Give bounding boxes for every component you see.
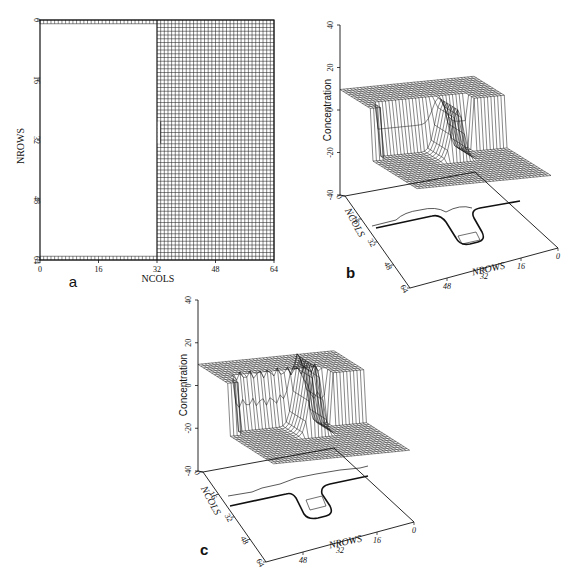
z-tick-label: 40 bbox=[326, 21, 335, 29]
panel-a-grid-plot: 016324864 016324864 NROWS NCOLS a bbox=[15, 18, 278, 290]
nrows-tick-label: 16 bbox=[373, 536, 381, 545]
ncols-tick-label: 0 bbox=[334, 193, 344, 201]
panel-c-letter: c bbox=[200, 541, 208, 558]
z-tick-label: -40 bbox=[326, 190, 335, 201]
panel-c-ncols-label: NCOLS bbox=[198, 483, 223, 517]
x-tick-label: 16 bbox=[95, 265, 103, 274]
y-tick-label: 16 bbox=[32, 76, 41, 84]
panel-a-x-axis-label: NCOLS bbox=[142, 273, 175, 284]
panel-b-letter: b bbox=[346, 264, 355, 281]
contour-line bbox=[372, 207, 472, 226]
z-tick-label: 40 bbox=[184, 296, 193, 304]
z-tick-label: -20 bbox=[326, 147, 335, 158]
y-tick-label: 32 bbox=[32, 136, 41, 144]
surface-mesh bbox=[198, 351, 410, 464]
panel-c-surface-plot: 0163248644832160 40200-20-40 Concentrati… bbox=[178, 296, 416, 568]
figure-canvas: 016324864 016324864 NROWS NCOLS a 016324… bbox=[0, 0, 584, 568]
ncols-tick-label: 48 bbox=[382, 260, 394, 271]
panel-c-surface bbox=[198, 351, 410, 464]
contour-line bbox=[230, 476, 368, 519]
contour-line bbox=[306, 496, 326, 510]
ncols-tick-label: 32 bbox=[366, 237, 378, 248]
nrows-tick-label: 0 bbox=[556, 252, 560, 261]
panel-a-grid-cells bbox=[40, 20, 274, 260]
grid-notch bbox=[157, 121, 160, 144]
nrows-tick-label: 48 bbox=[443, 282, 451, 291]
x-tick-label: 0 bbox=[38, 265, 42, 274]
panel-b-surface bbox=[340, 76, 551, 188]
panel-a-letter: a bbox=[69, 273, 78, 290]
panel-a-x-ticks: 016324864 bbox=[38, 260, 278, 274]
surface-mesh bbox=[340, 76, 551, 188]
x-tick-label: 64 bbox=[270, 265, 278, 274]
panel-b-contour-base: 0163248644832160 bbox=[334, 172, 560, 294]
contour-line bbox=[376, 201, 520, 244]
z-tick-label: 20 bbox=[184, 339, 193, 347]
z-tick-label: -20 bbox=[184, 423, 193, 434]
panel-b-surface-plot: 0163248644832160 40200-20-40 Concentrati… bbox=[322, 21, 560, 294]
z-tick-label: -40 bbox=[184, 466, 193, 477]
nrows-tick-label: 48 bbox=[299, 556, 307, 565]
y-tick-label: 48 bbox=[32, 196, 41, 204]
panel-c-z-axis-label: Concentration bbox=[178, 354, 189, 416]
ncols-tick-label: 48 bbox=[239, 535, 251, 546]
ncols-tick-label: 32 bbox=[223, 512, 235, 523]
y-tick-label: 0 bbox=[32, 18, 41, 22]
z-tick-label: 20 bbox=[326, 64, 335, 72]
nrows-tick-label: 16 bbox=[517, 262, 525, 271]
panel-c-nrows-label: NROWS bbox=[327, 533, 363, 551]
panel-a-y-axis-label: NROWS bbox=[15, 128, 26, 164]
ncols-tick-label: 0 bbox=[192, 469, 202, 477]
panel-c-contour-base: 0163248644832160 bbox=[192, 448, 416, 568]
panel-b-z-axis-label: Concentration bbox=[322, 79, 333, 141]
x-tick-label: 48 bbox=[212, 265, 220, 274]
ncols-tick-label: 64 bbox=[398, 283, 410, 294]
nrows-tick-label: 0 bbox=[412, 526, 416, 535]
